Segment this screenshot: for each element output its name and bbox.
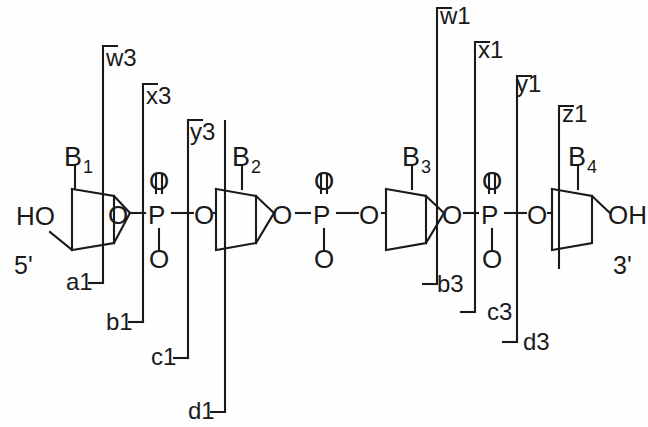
structure-diagram-canvas: HO 5' B 1 O P O O O [0, 0, 648, 427]
left-hydroxyl-label: HO [16, 201, 55, 231]
cleavage-bracket-y3 [188, 120, 202, 358]
fragment-label-w1: w1 [439, 2, 471, 29]
bridge-oxygen-2-label: O [194, 200, 214, 230]
fragment-label-c3: c3 [487, 298, 512, 325]
bridging-oxygen-6: O [527, 200, 547, 230]
sugar-ring-4 [548, 166, 610, 250]
five-prime-label: 5' [14, 251, 33, 279]
base-3-subscript: 3 [421, 157, 431, 177]
cleavage-bracket-z1 [559, 106, 573, 268]
sugar-ring-3 [382, 166, 444, 250]
phosphorus-1-label: P [148, 200, 165, 230]
bridging-oxygen-4: O [359, 200, 379, 230]
fragment-label-y1: y1 [516, 70, 541, 97]
fragment-label-group-upper-right: w1 x1 y1 z1 [439, 2, 587, 127]
fragment-label-c1: c1 [151, 343, 176, 370]
terminus-label-5prime: 5' [14, 251, 33, 279]
fragment-label-y3: y3 [190, 118, 215, 145]
fragment-label-w3: w3 [105, 44, 137, 71]
phosphorus-2-label: P [313, 200, 330, 230]
phosphate-group-3: P O O [481, 166, 526, 274]
three-prime-label: 3' [613, 251, 632, 279]
base-1-symbol: B [64, 142, 82, 172]
fragment-label-z1: z1 [562, 100, 587, 127]
base-label-4: B 4 [568, 142, 597, 177]
fragment-label-group-lower-right: b3 c3 d3 [437, 270, 550, 355]
fragment-label-b3: b3 [437, 270, 464, 297]
terminal-hydroxyl-left: HO [16, 201, 55, 231]
phosphate-1-oxygen-up: O [149, 166, 169, 196]
bridge-oxygen-5-label: O [442, 200, 462, 230]
fragment-label-d3: d3 [523, 328, 550, 355]
fragment-label-d1: d1 [188, 397, 215, 424]
fragment-label-a1: a1 [66, 268, 93, 295]
base-2-subscript: 2 [251, 157, 261, 177]
fragment-label-x1: x1 [478, 36, 503, 63]
fragment-label-b1: b1 [106, 308, 133, 335]
fragment-label-group-upper-left: w3 x3 y3 [105, 44, 215, 145]
base-3-symbol: B [402, 142, 420, 172]
cleavage-bracket-w3 [103, 46, 117, 283]
phosphate-group-2: P O O [313, 166, 358, 274]
terminal-hydroxyl-right: OH [608, 200, 647, 230]
bridge-oxygen-4-label: O [359, 200, 379, 230]
bridging-oxygen-1: O [108, 200, 128, 230]
bridge-oxygen-3-label: O [272, 200, 292, 230]
terminus-label-3prime: 3' [613, 251, 632, 279]
phosphate-2-oxygen-up: O [314, 166, 334, 196]
bridging-oxygen-3: O [272, 200, 292, 230]
fragment-label-x3: x3 [146, 82, 171, 109]
base-label-3: B 3 [402, 142, 431, 177]
bridging-oxygen-2: O [194, 200, 214, 230]
right-hydroxyl-label: OH [608, 200, 647, 230]
bridge-oxygen-6-label: O [527, 200, 547, 230]
phosphate-group-1: P O O [148, 166, 193, 274]
phosphorus-3-label: P [481, 200, 498, 230]
base-4-symbol: B [568, 142, 586, 172]
base-label-2: B 2 [232, 142, 261, 177]
phosphate-3-oxygen-up: O [482, 166, 502, 196]
chemical-structure-svg: HO 5' B 1 O P O O O [0, 0, 648, 427]
bridge-oxygen-1-label: O [108, 200, 128, 230]
sugar-ring-2 [214, 166, 274, 250]
base-2-symbol: B [232, 142, 250, 172]
fragment-label-group-lower-left: a1 b1 c1 d1 [66, 268, 215, 424]
cleavage-bracket-w1 [437, 8, 451, 284]
base-1-subscript: 1 [83, 157, 93, 177]
bridging-oxygen-5: O [442, 200, 462, 230]
base-label-1: B 1 [64, 142, 93, 177]
base-4-subscript: 4 [587, 157, 597, 177]
cleavage-bracket-d1 [211, 121, 225, 412]
